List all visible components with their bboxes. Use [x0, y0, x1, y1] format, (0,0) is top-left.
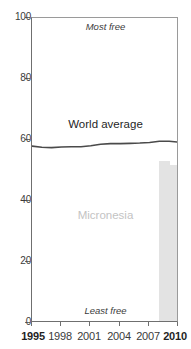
x-tick-mark-2010	[177, 322, 178, 326]
y-axis: 100 80 60 40 20 0	[0, 0, 31, 349]
series-label-micronesia: Micronesia	[32, 209, 178, 221]
y-tick-label-60: 60	[9, 134, 31, 144]
y-tick-label-20: 20	[9, 256, 31, 266]
y-tick-label-100: 100	[9, 12, 31, 22]
plot-area: Most free Least free World average Micro…	[31, 17, 178, 322]
series-label-world-average: World average	[32, 118, 178, 130]
x-tick-mark-2004	[119, 322, 120, 326]
x-tick-mark-2007	[148, 322, 149, 326]
x-tick-mark-1995	[31, 322, 32, 326]
x-tick-label-2010: 2010	[155, 330, 191, 342]
world-average-line	[32, 18, 178, 322]
y-tick-label-80: 80	[9, 73, 31, 83]
y-tick-label-40: 40	[9, 195, 31, 205]
x-tick-mark-1998	[60, 322, 61, 326]
freedom-index-chart: Freedom 100 80 60 40 20 0 Most free Leas…	[0, 0, 191, 349]
x-tick-mark-2001	[89, 322, 90, 326]
x-axis: 1995 1998 2001 2004 2007 2010	[0, 322, 191, 349]
